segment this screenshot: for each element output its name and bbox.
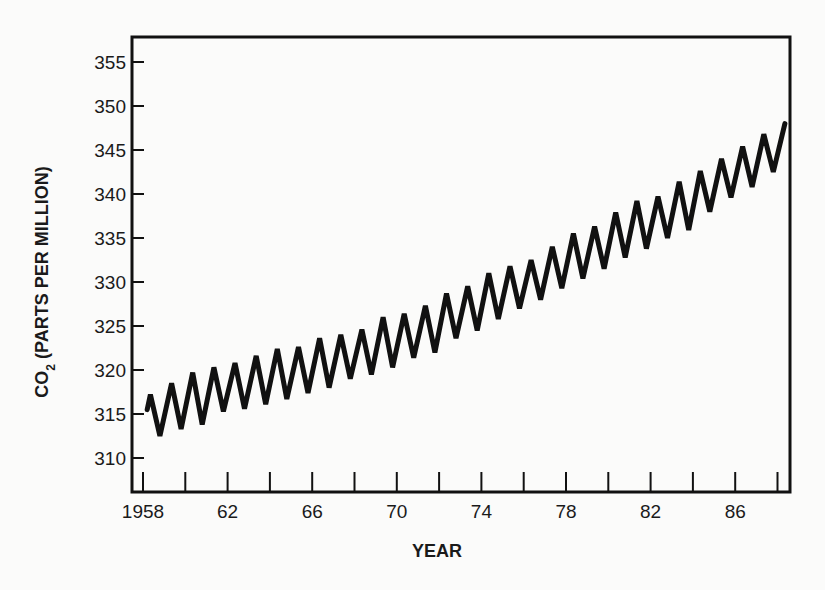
- y-tick-label: 335: [94, 228, 126, 249]
- x-tick-label: 62: [217, 501, 238, 522]
- co2-chart: 310315320325330335340345350355 195862667…: [0, 0, 825, 590]
- x-tick-label: 86: [725, 501, 746, 522]
- y-tick-label: 340: [94, 184, 126, 205]
- plot-frame: [132, 37, 790, 492]
- y-tick-label: 355: [94, 52, 126, 73]
- x-axis-title: YEAR: [412, 541, 462, 561]
- plot-border: [132, 37, 790, 492]
- y-tick-label: 330: [94, 272, 126, 293]
- y-tick-label: 320: [94, 360, 126, 381]
- y-tick-label: 310: [94, 448, 126, 469]
- y-axis-title: CO2 (PARTS PER MILLION): [32, 166, 58, 397]
- y-axis: 310315320325330335340345350355: [94, 52, 144, 469]
- y-tick-label: 350: [94, 96, 126, 117]
- x-tick-label: 82: [640, 501, 661, 522]
- x-tick-label: 66: [302, 501, 323, 522]
- x-tick-label: 74: [471, 501, 493, 522]
- y-tick-label: 345: [94, 140, 126, 161]
- co2-line: [147, 124, 785, 436]
- y-tick-label: 325: [94, 316, 126, 337]
- x-tick-label: 78: [555, 501, 576, 522]
- series-layer: [147, 124, 785, 436]
- y-tick-label: 315: [94, 404, 126, 425]
- x-tick-label: 1958: [122, 501, 164, 522]
- x-tick-label: 70: [386, 501, 407, 522]
- x-axis: 195862667074788286: [122, 472, 778, 522]
